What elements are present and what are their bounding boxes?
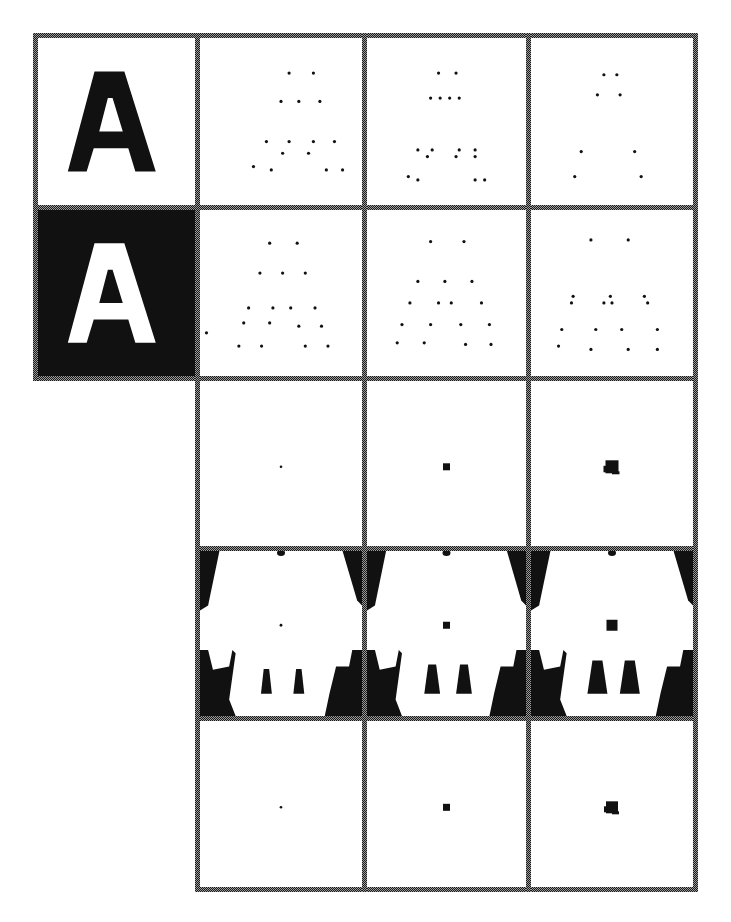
grid-vline-1 (195, 33, 200, 892)
panel-center-blob-r2c2 (367, 381, 526, 546)
panel-dots-r1c2 (367, 210, 526, 376)
morphology-figure (0, 0, 731, 922)
panel-glyph-r1c0 (38, 210, 195, 376)
panel-glyph-r0c0 (38, 38, 195, 205)
panel-center-blob-r4c2 (367, 721, 526, 887)
panel-eroded-r3c1 (200, 551, 362, 716)
grid-vline-3 (526, 33, 531, 892)
panel-dots-r0c3 (531, 38, 693, 205)
grid-hline-4 (195, 716, 698, 721)
panel-center-blob-r2c1 (200, 381, 362, 546)
grid-vline-4 (693, 33, 698, 892)
grid-vline-2 (362, 33, 367, 892)
grid-hline-3 (195, 546, 698, 551)
grid-vline-0 (33, 33, 38, 381)
panel-eroded-r3c2 (367, 551, 526, 716)
panel-center-blob-r4c1 (200, 721, 362, 887)
panel-dots-r0c1 (200, 38, 362, 205)
grid-hline-5 (195, 887, 698, 892)
panel-center-blob-r4c3 (531, 721, 693, 887)
panel-eroded-r3c3 (531, 551, 693, 716)
panel-center-blob-r2c3 (531, 381, 693, 546)
panel-dots-r1c3 (531, 210, 693, 376)
panel-dots-r1c1 (200, 210, 362, 376)
panel-dots-r0c2 (367, 38, 526, 205)
